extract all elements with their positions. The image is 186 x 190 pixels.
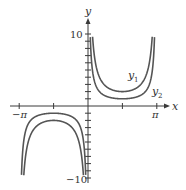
series-label-y2: y 2	[151, 85, 162, 100]
series-label-y1: y 1	[127, 69, 138, 84]
x-tick-label-pi: π	[151, 109, 159, 120]
curve-y1-branch-positive	[93, 37, 153, 92]
series-label-y1-sub: 1	[134, 76, 138, 84]
y-tick-label-10: 10	[70, 29, 83, 40]
curve-y2-branch-positive	[90, 37, 154, 99]
curve-y2-branch-negative	[21, 113, 85, 175]
curve-y1-branch-negative	[24, 120, 84, 175]
y-axis-arrow-icon	[86, 18, 91, 24]
x-axis-arrow-icon	[164, 104, 170, 109]
series-label-y2-sub: 2	[158, 92, 162, 100]
y-axis-label: y	[84, 5, 92, 18]
chart: x y 10 −10 −π π y 1 y 2	[0, 0, 186, 190]
y-tick-label-neg10: −10	[66, 174, 87, 185]
x-axis-label: x	[172, 100, 179, 113]
x-tick-label-neg-pi: −π	[12, 109, 27, 120]
